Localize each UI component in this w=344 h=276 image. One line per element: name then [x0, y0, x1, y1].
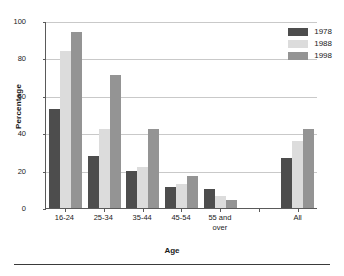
legend-swatch-icon — [288, 28, 308, 36]
legend-label: 1998 — [314, 52, 332, 60]
y-tick-label: 20 — [2, 168, 26, 176]
x-tick-label: 55 andover — [200, 213, 239, 243]
y-tick-label: 40 — [2, 130, 26, 138]
bar-1998-All — [303, 129, 314, 208]
plot-area — [45, 22, 317, 209]
bar-group — [201, 22, 240, 208]
bar-1988-25-34 — [99, 129, 110, 208]
bar-1998-25-34 — [110, 75, 121, 208]
y-tick-label: 0 — [2, 205, 26, 213]
legend-swatch-icon — [288, 40, 308, 48]
x-axis-title: Age — [0, 246, 344, 255]
bar-1988-16-24 — [60, 51, 71, 208]
x-tick-mark — [143, 208, 144, 212]
legend-swatch-icon — [288, 52, 308, 60]
bar-1988-35-44 — [137, 167, 148, 208]
legend-label: 1988 — [314, 40, 332, 48]
bar-group — [123, 22, 162, 208]
x-tick-label: 35-44 — [123, 213, 162, 243]
x-tick-mark — [220, 208, 221, 212]
bar-1978-25-34 — [88, 156, 99, 208]
x-axis-tick-labels: 16-2425-3435-4445-5455 andoverAll — [45, 213, 317, 243]
bar-chart-figure: Percentage 020406080100 16-2425-3435-444… — [0, 0, 344, 276]
bar-1998-16-24 — [71, 32, 82, 208]
bar-1998-45-54 — [187, 176, 198, 208]
legend-label: 1978 — [314, 28, 332, 36]
x-tick-mark — [259, 208, 260, 212]
x-tick-mark — [104, 208, 105, 212]
bar-1978-All — [281, 158, 292, 208]
footer-rule — [14, 264, 330, 265]
y-tick-mark — [43, 209, 46, 210]
x-tick-label: 45-54 — [162, 213, 201, 243]
x-tick-mark — [65, 208, 66, 212]
bar-group — [85, 22, 124, 208]
y-tick-label: 100 — [2, 18, 26, 26]
bar-1978-35-44 — [126, 171, 137, 208]
bar-1978-55 and over — [204, 189, 215, 208]
chart-legend: 197819881998 — [288, 28, 332, 60]
bar-group — [162, 22, 201, 208]
bar-1978-16-24 — [49, 109, 60, 208]
x-tick-label: 16-24 — [45, 213, 84, 243]
bar-1978-45-54 — [165, 187, 176, 208]
x-tick-mark — [298, 208, 299, 212]
y-tick-label: 60 — [2, 93, 26, 101]
x-tick-label: 25-34 — [84, 213, 123, 243]
x-tick-label: All — [278, 213, 317, 243]
bar-1998-35-44 — [148, 129, 159, 208]
bar-1998-55 and over — [226, 200, 237, 208]
bar-1988-55 and over — [215, 196, 226, 208]
bar-group — [240, 22, 279, 208]
bar-group — [46, 22, 85, 208]
y-tick-label: 80 — [2, 55, 26, 63]
bar-1988-All — [292, 141, 303, 208]
bar-1988-45-54 — [176, 184, 187, 208]
legend-item-1998: 1998 — [288, 52, 332, 60]
legend-item-1988: 1988 — [288, 40, 332, 48]
legend-item-1978: 1978 — [288, 28, 332, 36]
bar-series-container — [46, 22, 317, 208]
x-tick-mark — [181, 208, 182, 212]
x-tick-label — [239, 213, 278, 243]
